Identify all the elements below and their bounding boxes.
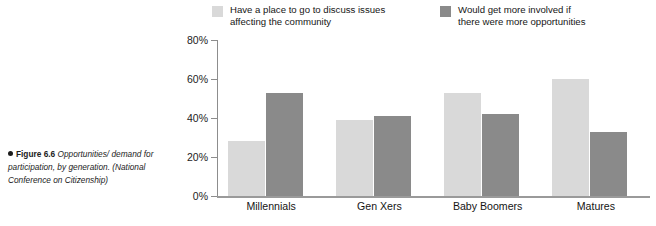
y-axis-tick-label: 40% (170, 112, 208, 124)
legend-item-have-a-place: Have a place to go to discuss issues aff… (212, 4, 385, 29)
legend-item-would-get-involved: Would get more involved if there were mo… (440, 4, 585, 29)
figure-number: Figure 6.6 (16, 149, 55, 159)
figure-caption: Figure 6.6 Opportunities/ demand for par… (8, 148, 168, 188)
bar-group (434, 40, 542, 196)
bar (336, 120, 373, 196)
bar-chart: Have a place to go to discuss issues aff… (0, 0, 656, 226)
x-axis-tick-label: Matures (542, 200, 650, 212)
chart-legend: Have a place to go to discuss issues aff… (212, 4, 652, 38)
y-axis-tick (211, 196, 217, 197)
y-axis-tick-label: 80% (170, 34, 208, 46)
y-axis-tick-label: 20% (170, 151, 208, 163)
x-axis-line (217, 196, 650, 198)
legend-swatch-light (212, 6, 223, 17)
y-axis-tick-label: 60% (170, 73, 208, 85)
x-axis-tick-label: Millennials (217, 200, 325, 212)
bar-group (217, 40, 325, 196)
bullet-icon (8, 151, 13, 156)
x-axis-tick-label: Gen Xers (325, 200, 433, 212)
legend-swatch-dark (440, 6, 451, 17)
bar-series-container (217, 40, 650, 196)
bar (590, 132, 627, 196)
legend-label-light: Have a place to go to discuss issues aff… (230, 4, 385, 29)
x-axis-tick-label: Baby Boomers (434, 200, 542, 212)
bar (482, 114, 519, 196)
legend-label-dark: Would get more involved if there were mo… (458, 4, 585, 29)
bar (266, 93, 303, 196)
bar-group (542, 40, 650, 196)
bar (552, 79, 589, 196)
bar (374, 116, 411, 196)
bar (228, 141, 265, 196)
y-axis-tick-label: 0% (170, 190, 208, 202)
bar (444, 93, 481, 196)
bar-group (325, 40, 433, 196)
